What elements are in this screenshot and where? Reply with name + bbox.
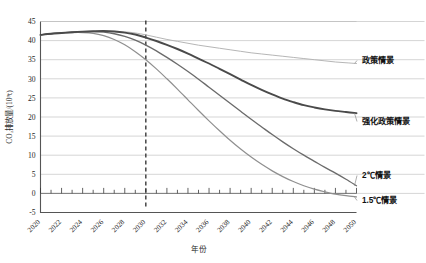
x-axis-tick-label: 2042 [258, 218, 274, 234]
x-axis-tick-label: 2028 [110, 218, 126, 234]
series-label-1.5℃情景: 1.5℃情景 [362, 195, 397, 205]
y-axis-title: CO₂排放量/(10⁹t) [4, 90, 14, 144]
x-axis-tick-label: 2024 [68, 218, 84, 234]
x-axis-tick-label: 2032 [152, 218, 168, 234]
y-axis-tick-label: 5 [32, 170, 36, 179]
x-axis-tick-label: 2020 [26, 218, 42, 234]
x-axis-tick-label: 2038 [216, 218, 232, 234]
y-axis-tick-label: 40 [28, 36, 36, 45]
series-line-强化政策情景 [41, 31, 357, 113]
x-axis-tick-label: 2044 [279, 218, 295, 234]
series-leader-line-强化政策情景 [355, 113, 358, 121]
x-axis-tick-label: 2046 [300, 218, 316, 234]
y-axis-tick-label: -5 [29, 208, 36, 217]
x-axis-tick-label: 2026 [89, 218, 105, 234]
x-axis-tick-label: 2030 [131, 218, 147, 234]
series-label-2℃情景: 2℃情景 [362, 170, 391, 180]
x-axis-title: 年份 [191, 244, 207, 254]
x-axis-tick-label: 2050 [342, 218, 358, 234]
series-label-强化政策情景: 强化政策情景 [362, 116, 410, 126]
y-axis-tick-label: 0 [32, 189, 36, 198]
series-line-2℃情景 [41, 32, 357, 186]
chart-canvas: -505101520253035404520202022202420262028… [0, 0, 426, 263]
y-axis-tick-label: 10 [28, 151, 36, 160]
y-axis-tick-label: 35 [28, 55, 36, 64]
series-line-1.5℃情景 [41, 33, 357, 197]
x-axis-tick-label: 2022 [47, 218, 63, 234]
y-axis-tick-label: 25 [28, 94, 36, 103]
y-axis-tick-label: 20 [28, 113, 36, 122]
y-axis-tick-label: 15 [28, 132, 36, 141]
series-leader-line-2℃情景 [355, 176, 358, 186]
y-axis-tick-label: 30 [28, 75, 36, 84]
y-axis-tick-label: 45 [28, 17, 36, 26]
x-axis-tick-label: 2034 [174, 218, 190, 234]
co2-emission-scenarios-chart: -505101520253035404520202022202420262028… [0, 0, 426, 263]
x-axis-tick-label: 2036 [195, 218, 211, 234]
series-label-政策情景: 政策情景 [362, 55, 394, 65]
x-axis-tick-label: 2048 [321, 218, 337, 234]
x-axis-tick-label: 2040 [237, 218, 253, 234]
